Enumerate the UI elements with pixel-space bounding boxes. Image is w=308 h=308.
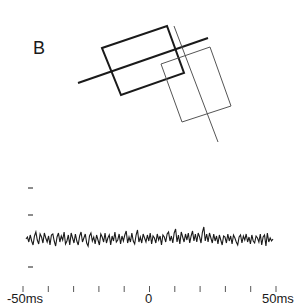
trace-line [26,227,273,246]
figure-panel [0,0,308,308]
y-axis-ticks [28,188,33,267]
x-label-end: 50ms [262,292,294,306]
x-label-start: -50ms [7,292,43,306]
x-label-zero: 0 [145,292,152,306]
panel-label: B [33,39,45,57]
receptive-field-diagram [78,26,231,142]
thick-orientation-line [78,38,208,83]
thin-orientation-line [174,26,218,142]
